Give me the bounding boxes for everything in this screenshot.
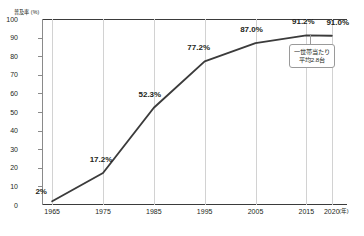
point-label-1975: 17.2%	[90, 156, 113, 164]
y-tick-50: 50	[10, 109, 18, 116]
callout-line-1: 一世帯当たり	[294, 48, 330, 56]
callout-line-2: 平均2.8台	[294, 56, 330, 64]
x-tick-1995: 1995	[197, 208, 213, 215]
x-tick-2005: 2005	[248, 208, 264, 215]
y-tick-70: 70	[10, 71, 18, 78]
x-tick-1975: 1975	[95, 208, 111, 215]
point-label-2005: 87.0%	[240, 26, 263, 34]
y-tick-30: 30	[10, 146, 18, 153]
x-tick-1985: 1985	[146, 208, 162, 215]
y-tick-20: 20	[10, 164, 18, 171]
y-axis-unit-label: 普及率 (%)	[14, 8, 39, 15]
y-tick-100: 100	[6, 16, 18, 23]
household-average-callout: 一世帯当たり 平均2.8台	[289, 44, 335, 68]
point-label-1965: 2%	[35, 188, 47, 196]
callout-leader-line	[310, 34, 311, 44]
y-tick-10: 10	[10, 183, 18, 190]
y-tick-90: 90	[10, 34, 18, 41]
point-label-2020: 91.0%	[326, 19, 349, 27]
x-tick-1965: 1965	[44, 208, 60, 215]
point-label-1995: 77.2%	[187, 44, 210, 52]
x-tick-2015: 2015	[299, 208, 315, 215]
x-tick-2020: 2020	[324, 208, 340, 215]
point-label-1985: 52.3%	[138, 91, 161, 99]
diffusion-rate-line-chart: 普及率 (%) 0102030405060708090100 196519751…	[0, 0, 364, 236]
x-axis-unit-label: (年)	[339, 207, 349, 215]
y-tick-0: 0	[14, 202, 18, 209]
y-tick-80: 80	[10, 53, 18, 60]
point-label-2015: 91.2%	[292, 18, 315, 26]
y-tick-60: 60	[10, 90, 18, 97]
y-tick-40: 40	[10, 127, 18, 134]
